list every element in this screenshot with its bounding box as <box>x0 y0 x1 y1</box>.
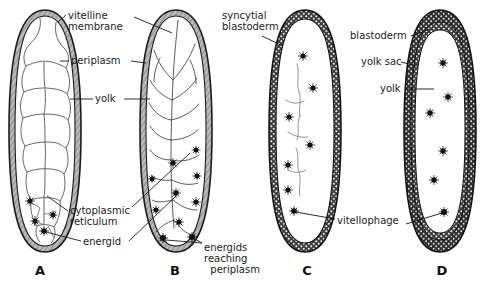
panel-letter-c: C <box>297 263 317 278</box>
egg-d <box>401 10 476 252</box>
label-syncytial-blastoderm: syncytial blastoderm <box>222 10 279 32</box>
label-energids-reaching-periplasm: energids reaching periplasm <box>204 242 260 275</box>
panel-letter-d: D <box>432 263 452 278</box>
panel-letter-a: A <box>30 263 50 278</box>
label-yolk-left: yolk <box>95 93 116 104</box>
egg-cleavage-figure: vitelline membrane periplasm yolk cytopl… <box>0 0 487 293</box>
vitellophage-labelled-d <box>439 207 449 217</box>
egg-c-syncytial-blastoderm-inner <box>276 19 334 243</box>
label-vitellophage: vitellophage <box>337 215 399 226</box>
energid-reaching-periplasm-left <box>158 233 168 243</box>
label-blastoderm: blastoderm <box>350 30 407 41</box>
label-vitelline-membrane: vitelline membrane <box>68 10 123 32</box>
label-energid: energid <box>83 236 121 247</box>
egg-c <box>262 10 341 252</box>
egg-b <box>124 10 212 252</box>
label-yolk-sac: yolk sac <box>361 56 402 67</box>
panel-letter-b: B <box>165 263 185 278</box>
label-yolk-right: yolk <box>380 83 401 94</box>
vitellophage-labelled-c <box>289 206 299 216</box>
label-cytoplasmic-reticulum: cytoplasmic reticulum <box>70 205 130 227</box>
energid-reaching-periplasm-right <box>187 232 197 242</box>
label-periplasm: periplasm <box>71 55 121 66</box>
